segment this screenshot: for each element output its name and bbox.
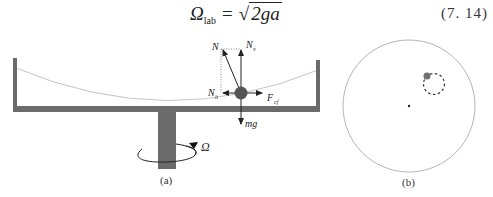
figure-b: (b): [343, 40, 475, 189]
figure-canvas: Ω N N v N h F cf mg (a) (b): [0, 0, 493, 197]
normal-vertical-sub: v: [253, 46, 256, 52]
container-right-wall: [316, 60, 320, 112]
container-bottom: [13, 106, 320, 112]
centrifugal-sub: cf: [274, 99, 280, 105]
centrifugal-label: F: [266, 92, 274, 103]
normal-horizontal-sub: h: [215, 94, 218, 100]
figure-a: Ω N N v N h F cf mg (a): [13, 39, 320, 187]
figure-b-caption: (b): [402, 176, 415, 189]
ball: [235, 87, 248, 100]
gravity-label: mg: [245, 118, 257, 129]
rotation-shaft: [158, 112, 176, 169]
figure-a-caption: (a): [160, 174, 173, 187]
ball-b: [424, 73, 431, 80]
center-dot: [408, 105, 410, 107]
normal-force-arrow-icon: [223, 50, 241, 93]
normal-force-label: N: [211, 41, 220, 52]
container-left-wall: [13, 58, 17, 112]
rotation-label: Ω: [201, 140, 210, 154]
